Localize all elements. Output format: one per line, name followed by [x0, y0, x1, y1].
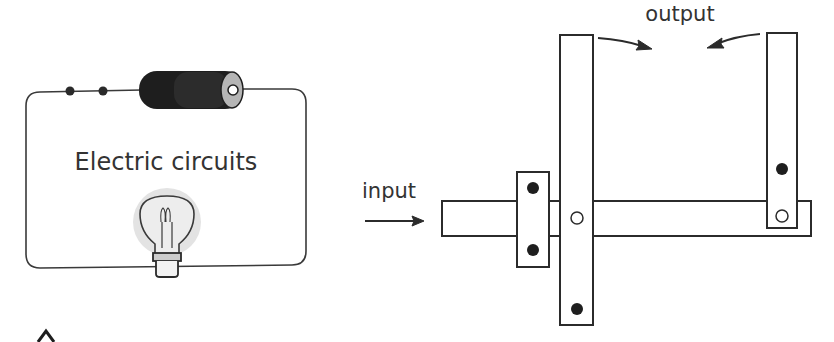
- output-arrow-left-icon: [598, 38, 652, 50]
- fixed-pivot-right-lever: [776, 163, 788, 175]
- moving-pivot-right: [776, 210, 788, 222]
- terminal-dot-2: [99, 87, 108, 96]
- left-lever: [560, 35, 593, 325]
- terminal-dot-1: [66, 87, 75, 96]
- right-lever: [767, 33, 797, 228]
- circuit-title: Electric circuits: [75, 148, 258, 176]
- diagram-canvas: Electric circuits input: [0, 0, 834, 342]
- moving-pivot-left: [571, 212, 583, 224]
- linkage-mechanism: input output: [362, 2, 811, 325]
- input-arrow-icon: [365, 216, 424, 226]
- fixed-pivot-left-lever: [571, 303, 583, 315]
- fixed-pivot-1: [527, 182, 539, 194]
- output-arrow-right-icon: [707, 34, 760, 48]
- battery-icon: [139, 71, 243, 109]
- electric-circuit: Electric circuits: [26, 71, 306, 277]
- fixed-pivot-2: [527, 244, 539, 256]
- horizontal-rod: [442, 201, 811, 236]
- light-bulb-icon: [133, 188, 201, 277]
- partial-up-arrow-icon: [38, 331, 54, 342]
- output-label: output: [645, 2, 714, 26]
- input-label: input: [362, 179, 416, 203]
